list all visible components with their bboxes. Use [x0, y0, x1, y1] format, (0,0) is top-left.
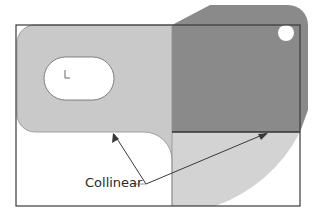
lower-arc-region [172, 132, 300, 206]
slot-cutout [44, 57, 114, 100]
hole [278, 25, 294, 41]
arrowhead-left-icon [112, 133, 119, 143]
collinear-label: Collinear [85, 175, 142, 190]
sheet-metal-diagram [0, 0, 323, 214]
dark-part [172, 5, 308, 132]
